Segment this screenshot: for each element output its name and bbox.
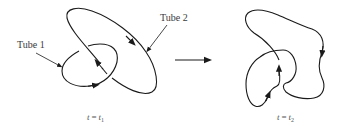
- time-subscript: 2: [291, 117, 294, 123]
- time-var: t: [87, 112, 90, 122]
- tube2-leader-line: [148, 25, 167, 50]
- tube1-direction-arrow: [88, 85, 96, 86]
- time-subscript: 1: [101, 117, 104, 123]
- time-var: t: [277, 112, 280, 122]
- tube1-label: Tube 1: [17, 40, 45, 50]
- tube2-loop: [67, 8, 157, 93]
- reconnected-direction-arrow-left: [266, 94, 269, 101]
- equals-sign: =: [282, 112, 287, 122]
- equals-sign: =: [92, 112, 97, 122]
- tube1-leader-line: [36, 53, 60, 66]
- tube2-direction-arrow: [126, 36, 133, 43]
- reconnected-tube-loop: [246, 10, 324, 106]
- tube2-direction-arrow-2: [97, 62, 103, 69]
- state-before-figure: [36, 8, 167, 93]
- reconnected-direction-arrow-right: [322, 46, 323, 54]
- time-label-before: t=t1: [87, 113, 104, 123]
- diagram-canvas: Tube 1 Tube 2 t=t1 t=t2: [0, 0, 343, 132]
- time-label-after: t=t2: [277, 113, 294, 123]
- state-after-figure: [246, 10, 324, 106]
- tube2-label: Tube 2: [160, 13, 188, 23]
